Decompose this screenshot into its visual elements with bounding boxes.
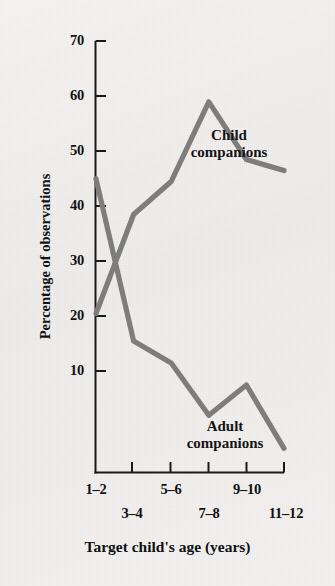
x-axis-ticks (132, 462, 284, 473)
y-tick-label-50: 50 (50, 142, 84, 159)
x-tick-label-1-2: 1–2 (74, 481, 118, 498)
series-label-adult-line2: companions (160, 435, 290, 452)
series-label-child-line2: companions (168, 144, 290, 161)
x-tick-label-9-10: 9–10 (220, 481, 274, 498)
x-tick-label-11-12: 11–12 (257, 505, 315, 522)
series-label-adult-companions: Adult companions (160, 418, 290, 452)
y-axis-title: Percentage of observations (37, 137, 54, 377)
x-tick-label-5-6: 5–6 (149, 481, 193, 498)
series-line-adult-companions (96, 179, 284, 449)
y-tick-label-30: 30 (50, 252, 84, 269)
x-tick-label-7-8: 7–8 (187, 505, 231, 522)
chart-figure: 70 60 50 40 30 20 10 1–2 3–4 5–6 7–8 9–1… (0, 0, 335, 586)
series-label-child-line1: Child (168, 127, 290, 144)
y-tick-label-10: 10 (50, 362, 84, 379)
y-tick-label-60: 60 (50, 87, 84, 104)
series-label-child-companions: Child companions (168, 127, 290, 161)
series-label-adult-line1: Adult (160, 418, 290, 435)
y-tick-label-40: 40 (50, 197, 84, 214)
y-tick-label-70: 70 (50, 32, 84, 49)
x-axis-title: Target child's age (years) (0, 538, 335, 556)
y-tick-label-20: 20 (50, 307, 84, 324)
x-tick-label-3-4: 3–4 (110, 505, 154, 522)
